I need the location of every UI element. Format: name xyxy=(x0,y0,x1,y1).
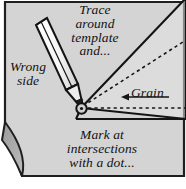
intersection-dot-center xyxy=(80,107,83,110)
grain-label: Grain xyxy=(131,86,181,100)
trace-line-3: template xyxy=(60,31,130,45)
mark-at-intersections-label: Mark at intersections with a dot... xyxy=(50,128,154,169)
trace-line-2: around xyxy=(60,17,130,31)
mark-line-1: Mark at xyxy=(50,128,154,142)
wrong-side-line-2: side xyxy=(2,74,54,88)
wrong-side-line-1: Wrong xyxy=(2,60,54,74)
illustration-canvas: Trace around template and... Wrong side … xyxy=(0,0,186,189)
wrong-side-label: Wrong side xyxy=(2,60,54,88)
trace-line-1: Trace xyxy=(60,3,130,17)
mark-line-2: intersections xyxy=(50,142,154,156)
mark-line-3: with a dot... xyxy=(50,156,154,170)
trace-line-4: and... xyxy=(60,44,130,58)
trace-around-template-label: Trace around template and... xyxy=(60,3,130,58)
